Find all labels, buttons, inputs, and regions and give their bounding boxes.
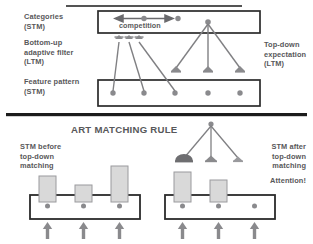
label-line: adaptive filter [24,48,74,58]
feature-node [141,90,146,95]
label-line: matching [200,161,306,171]
label-stm-after: STM after top-down matching [200,142,306,171]
stm-after-bar [174,172,191,202]
label-line: top-down [200,152,306,162]
label-line: top-down [20,152,61,162]
figure-title: ART MATCHING RULE [71,124,177,135]
label-feature-pattern: Feature pattern (STM) [24,77,79,96]
label-line: Feature pattern [24,77,79,87]
stm-after-node [216,204,221,209]
label-top-down-expectation: Top-down expectation (LTM) [264,40,306,69]
label-line: Categories [24,12,63,22]
winning-category-node [205,19,211,25]
category-node-2 [175,16,180,21]
attention-source-node [208,121,213,126]
stm-before-bar [111,166,128,202]
label-line: Bottom-up [24,38,74,48]
stm-before-node [81,204,86,209]
stm-after-node [180,204,185,209]
section-divider [6,113,307,116]
feature-node [172,90,177,95]
label-line: Top-down [264,40,306,50]
top-rule [66,5,242,7]
label-categories: Categories (STM) [24,12,63,31]
label-stm-before: STM before top-down matching [20,142,61,171]
figure-canvas: Categories (STM) Bottom-up adaptive filt… [0,0,313,244]
competition-label: competition [119,21,161,30]
label-line: expectation [264,50,306,60]
label-line: Attention! [200,176,306,186]
label-line: (STM) [24,22,63,32]
stm-before-bar [39,176,56,202]
stm-before-input-arrows [43,222,124,239]
label-bottom-up-adaptive-filter: Bottom-up adaptive filter (LTM) [24,38,74,67]
stm-before-node [45,204,50,209]
label-line: STM before [20,142,61,152]
top-down-links [176,24,240,68]
label-line: (STM) [24,87,79,97]
stm-after-input-arrows [178,222,259,239]
bottom-up-links [113,42,175,91]
label-attention: Attention! [200,176,306,186]
top-down-arrowheads [171,66,245,73]
feature-node [205,90,210,95]
stm-before-bar [75,185,92,202]
feature-pattern-box [98,80,260,106]
label-line: (LTM) [24,57,74,67]
art-diagram-svg [0,0,313,244]
feature-node [237,90,242,95]
feature-node [110,90,115,95]
stm-after-node [252,204,257,209]
label-line: (LTM) [264,59,306,69]
bottom-up-arrowheads [115,35,144,39]
stm-before-node [117,204,122,209]
label-line: STM after [200,142,306,152]
label-line: matching [20,161,61,171]
